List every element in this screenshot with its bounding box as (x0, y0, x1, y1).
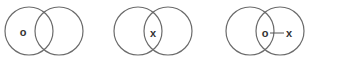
panel-2: x (114, 7, 192, 55)
panel-3: o x (226, 7, 304, 55)
panel-1: o (5, 7, 83, 55)
label-o: o (20, 26, 27, 38)
left-circle (5, 7, 53, 55)
venn-diagram-figure: o x o x (0, 0, 337, 63)
right-circle (35, 7, 83, 55)
label-x: x (286, 27, 293, 39)
label-x: x (150, 27, 157, 39)
label-o: o (262, 27, 269, 39)
